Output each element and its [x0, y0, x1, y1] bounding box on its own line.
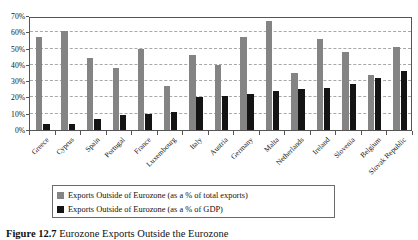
bar	[401, 71, 407, 130]
x-axis-tick-mark	[182, 131, 183, 135]
bar	[266, 21, 272, 130]
bar	[324, 88, 330, 130]
x-axis-tick-label: Greece	[30, 136, 50, 156]
x-axis-tick-mark	[157, 131, 158, 135]
figure-caption-text: Eurozone Exports Outside the Eurozone	[59, 228, 228, 239]
y-axis-tick-label: 10%	[11, 111, 25, 119]
bar	[222, 96, 228, 130]
bar	[317, 39, 323, 130]
bar-group	[30, 18, 56, 130]
bar-group	[107, 18, 133, 130]
bar	[342, 52, 348, 130]
x-axis-tick-mark	[386, 131, 387, 135]
x-axis-tick-mark	[106, 131, 107, 135]
bar	[291, 73, 297, 130]
chart-legend: Exports Outside of Eurozone (as a % of t…	[52, 185, 335, 218]
bar-group	[336, 18, 362, 130]
y-axis-tick-label: 20%	[11, 94, 25, 102]
figure-caption-label: Figure 12.7	[6, 228, 57, 239]
bar	[120, 115, 126, 130]
black-swatch-icon	[57, 206, 64, 213]
x-axis-tick-mark	[80, 131, 81, 135]
x-axis-tick-label: Italy	[188, 136, 203, 151]
x-axis-tick-label: Ireland	[311, 136, 331, 156]
y-axis-tick-label: 0%	[15, 127, 25, 135]
figure-caption: Figure 12.7 Eurozone Exports Outside the…	[6, 228, 416, 240]
bar	[113, 68, 119, 130]
y-axis-tick-label: 70%	[11, 13, 25, 21]
legend-item-label: Exports Outside of Eurozone (as a % of t…	[68, 191, 248, 200]
bar	[94, 119, 100, 130]
y-axis-tick-label: 60%	[11, 29, 25, 37]
bar	[61, 31, 67, 130]
bar	[43, 124, 49, 131]
bar	[171, 112, 177, 130]
bar-group	[158, 18, 184, 130]
bar-group	[209, 18, 235, 130]
bar	[215, 65, 221, 130]
bar	[145, 114, 151, 130]
bar-group	[234, 18, 260, 130]
figure-container: 70%60%50%40%30%20%10%0% GreeceCyprusSpai…	[0, 0, 418, 240]
x-axis-tick-label: Slovenia	[333, 136, 357, 160]
bar	[350, 84, 356, 130]
bar	[273, 91, 279, 130]
x-axis-tick-mark	[29, 131, 30, 135]
legend-item-label: Exports Outside of Eurozone (as a % of G…	[68, 205, 223, 214]
bar	[247, 94, 253, 130]
bar-group	[311, 18, 337, 130]
x-axis-tick-label: France	[133, 136, 153, 156]
x-axis-tick-label: Cyprus	[55, 136, 76, 157]
bar-group	[260, 18, 286, 130]
y-axis-tick-label: 40%	[11, 62, 25, 70]
bar	[138, 49, 144, 130]
bar	[240, 37, 246, 130]
x-axis-tick-mark	[412, 131, 413, 135]
legend-item: Exports Outside of Eurozone (as a % of G…	[57, 202, 330, 216]
bar-group	[285, 18, 311, 130]
plot-box	[29, 17, 412, 131]
x-axis-tick-mark	[284, 131, 285, 135]
bar	[368, 75, 374, 130]
y-axis-tick-label: 30%	[11, 78, 25, 86]
x-axis-tick-mark	[361, 131, 362, 135]
x-axis-tick-label: Malta	[262, 136, 280, 154]
x-axis-tick-mark	[233, 131, 234, 135]
bar	[393, 47, 399, 130]
x-axis-tick-mark	[259, 131, 260, 135]
x-axis-tick-label: Austria	[208, 136, 229, 157]
chart-plot-region: 70%60%50%40%30%20%10%0% GreeceCyprusSpai…	[0, 8, 418, 138]
x-axis-tick-mark	[55, 131, 56, 135]
y-axis-tick-label: 50%	[11, 46, 25, 54]
bar-group	[81, 18, 107, 130]
y-axis: 70%60%50%40%30%20%10%0%	[0, 17, 29, 131]
bar	[196, 97, 202, 130]
x-axis-tick-mark	[208, 131, 209, 135]
bar	[298, 89, 304, 130]
gray-swatch-icon	[57, 192, 64, 199]
bar	[69, 124, 75, 131]
x-axis-labels: GreeceCyprusSpainPortugalFranceLuxembour…	[29, 136, 412, 188]
x-axis-tick-mark	[310, 131, 311, 135]
bar	[189, 55, 195, 130]
bar-group	[387, 18, 413, 130]
x-axis-tick-mark	[131, 131, 132, 135]
bar	[87, 58, 93, 130]
bar-series-container	[30, 18, 411, 130]
bar	[164, 86, 170, 130]
x-axis-tick-label: Spain	[84, 136, 102, 154]
x-axis-tick-label: Portugal	[104, 136, 127, 159]
bar-group	[183, 18, 209, 130]
x-axis-tick-label: Germany	[230, 136, 255, 161]
bar-group	[362, 18, 388, 130]
bar	[36, 37, 42, 130]
bar	[375, 78, 381, 130]
x-axis-tick-mark	[335, 131, 336, 135]
bar-group	[132, 18, 158, 130]
bar-group	[56, 18, 82, 130]
legend-item: Exports Outside of Eurozone (as a % of t…	[57, 188, 330, 202]
